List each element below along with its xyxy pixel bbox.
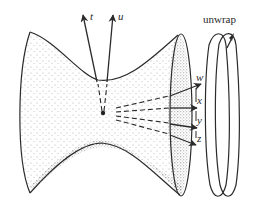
label-z: z	[196, 132, 202, 144]
hyperboloid-diagram: t u w x y z	[0, 0, 254, 207]
label-y: y	[196, 114, 202, 126]
hyperboloid-surface	[20, 32, 192, 196]
right-rim-shading	[168, 34, 190, 196]
label-u: u	[118, 10, 124, 22]
label-x: x	[196, 94, 202, 106]
diagram-canvas: t u w x y z	[0, 0, 254, 207]
unwrap-spiral: unwrap	[203, 13, 239, 196]
label-unwrap: unwrap	[203, 13, 236, 25]
label-w: w	[196, 71, 204, 83]
label-t: t	[90, 10, 94, 22]
origin-point	[101, 111, 105, 115]
